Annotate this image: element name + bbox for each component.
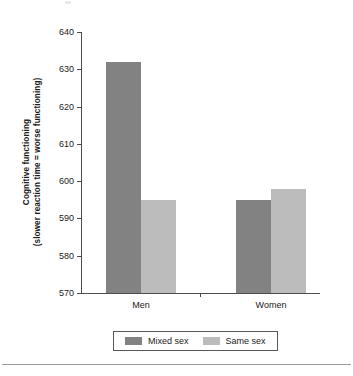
y-tick-label-570: 570	[59, 288, 74, 298]
chart-figure: Cognitive functioning (slower reaction t…	[0, 0, 353, 376]
y-tick-640	[77, 32, 81, 33]
y-tick-label-600: 600	[59, 176, 74, 186]
bar-men-same-sex[interactable]	[141, 200, 176, 293]
legend-label-same-sex: Same sex	[226, 336, 266, 346]
x-group-separator-tick	[200, 293, 201, 297]
y-tick-570	[77, 293, 81, 294]
x-axis-label-women: Women	[256, 300, 287, 310]
legend-swatch-mixed-sex-icon	[125, 337, 142, 345]
y-tick-label-580: 580	[59, 251, 74, 261]
y-tick-label-590: 590	[59, 213, 74, 223]
y-tick-label-620: 620	[59, 102, 74, 112]
y-tick-630	[77, 69, 81, 70]
scan-artifact	[65, 1, 71, 4]
y-tick-label-610: 610	[59, 139, 74, 149]
y-axis-title: Cognitive functioning (slower reaction t…	[14, 28, 50, 296]
y-tick-590	[77, 218, 81, 219]
y-tick-620	[77, 107, 81, 108]
bar-women-same-sex[interactable]	[271, 189, 306, 293]
y-axis-title-line1: Cognitive functioning	[21, 78, 32, 247]
y-axis-line	[81, 32, 82, 293]
y-tick-label-640: 640	[59, 27, 74, 37]
bottom-divider	[2, 364, 351, 365]
legend-item-mixed-sex[interactable]: Mixed sex	[125, 336, 189, 346]
y-tick-580	[77, 256, 81, 257]
y-tick-600	[77, 181, 81, 182]
legend-label-mixed-sex: Mixed sex	[148, 336, 189, 346]
bar-women-mixed-sex[interactable]	[236, 200, 271, 293]
y-axis-title-line2: (slower reaction time = worse functionin…	[32, 78, 43, 247]
legend-item-same-sex[interactable]: Same sex	[203, 336, 266, 346]
x-axis-label-men: Men	[132, 300, 150, 310]
chart-legend: Mixed sex Same sex	[113, 331, 278, 351]
plot-area: 570 580 590 600 610 620 630 640 Men Wome…	[81, 32, 320, 293]
bar-men-mixed-sex[interactable]	[106, 62, 141, 293]
y-tick-610	[77, 144, 81, 145]
legend-swatch-same-sex-icon	[203, 337, 220, 345]
y-tick-label-630: 630	[59, 64, 74, 74]
